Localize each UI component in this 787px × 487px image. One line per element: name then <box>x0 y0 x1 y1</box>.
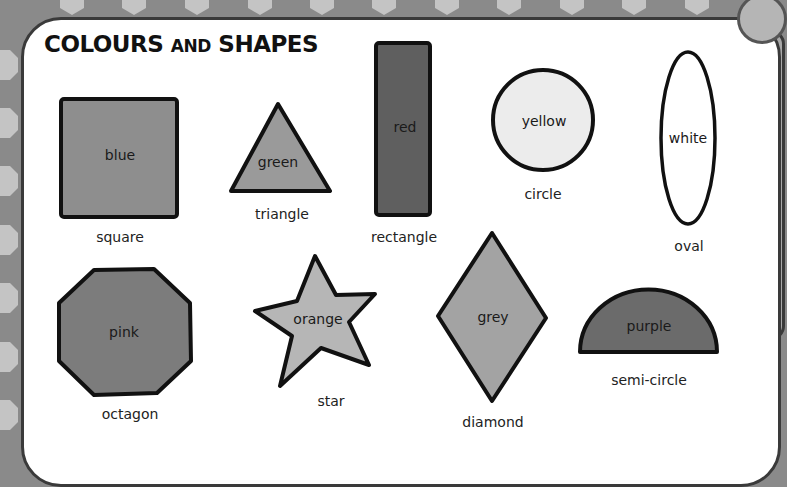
star-name-label: star <box>317 393 344 409</box>
octagon-colour-label: pink <box>109 324 139 340</box>
rectangle-name-label: rectangle <box>371 229 437 245</box>
circle-name-label: circle <box>524 186 561 202</box>
triangle-shape <box>231 104 330 191</box>
diamond-name-label: diamond <box>462 414 523 430</box>
star-colour-label: orange <box>293 311 342 327</box>
diamond-colour-label: grey <box>477 309 508 325</box>
circle-colour-label: yellow <box>522 113 567 129</box>
oval-colour-label: white <box>669 130 707 146</box>
oval-name-label: oval <box>674 238 703 254</box>
square-name-label: square <box>96 229 144 245</box>
semi-circle-colour-label: purple <box>627 318 672 334</box>
rectangle-colour-label: red <box>394 119 417 135</box>
octagon-name-label: octagon <box>102 406 159 422</box>
semi-circle-name-label: semi-circle <box>611 372 687 388</box>
triangle-colour-label: green <box>258 154 298 170</box>
square-colour-label: blue <box>105 147 135 163</box>
triangle-name-label: triangle <box>255 206 309 222</box>
